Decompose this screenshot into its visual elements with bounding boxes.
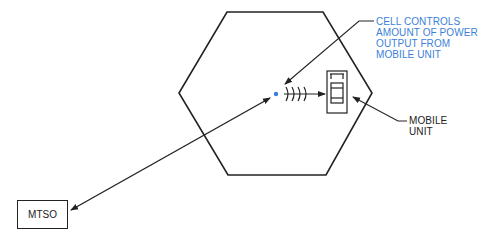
cell-site-dot — [274, 92, 278, 96]
mtso-link-arrow — [71, 98, 270, 210]
annotation-line: CELL CONTROLS — [376, 16, 478, 27]
annotation-line: OUTPUT FROM — [376, 38, 478, 49]
mobile-unit-annotation: MOBILE UNIT — [409, 115, 447, 137]
mtso-label: MTSO — [28, 209, 57, 220]
mtso-box: MTSO — [17, 200, 68, 229]
mobile-unit-leader — [353, 97, 407, 121]
mobile-unit-icon — [327, 71, 347, 113]
cell-controls-annotation: CELL CONTROLS AMOUNT OF POWER OUTPUT FRO… — [376, 16, 478, 60]
annotation-line: UNIT — [409, 126, 447, 137]
annotation-line: AMOUNT OF POWER — [376, 27, 478, 38]
annotation-line: MOBILE — [409, 115, 447, 126]
annotation-line: MOBILE UNIT — [376, 49, 478, 60]
radio-signal-icon — [284, 87, 325, 101]
